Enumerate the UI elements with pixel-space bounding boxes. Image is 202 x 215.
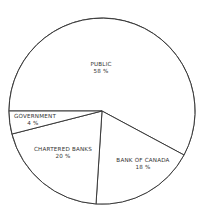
label-government-name: GOVERNMENT bbox=[14, 113, 56, 119]
label-bank-of-canada-pct: 18 % bbox=[135, 164, 150, 170]
label-public-name: PUBLIC bbox=[90, 61, 111, 67]
label-bank-of-canada-name: BANK OF CANADA bbox=[116, 157, 169, 163]
pie-chart: PUBLIC 58 % BANK OF CANADA 18 % CHARTERE… bbox=[0, 0, 202, 215]
label-chartered-banks-name: CHARTERED BANKS bbox=[34, 146, 92, 152]
label-public-pct: 58 % bbox=[93, 68, 108, 74]
label-government-pct: 4 % bbox=[27, 120, 38, 126]
label-chartered-banks-pct: 20 % bbox=[55, 153, 70, 159]
